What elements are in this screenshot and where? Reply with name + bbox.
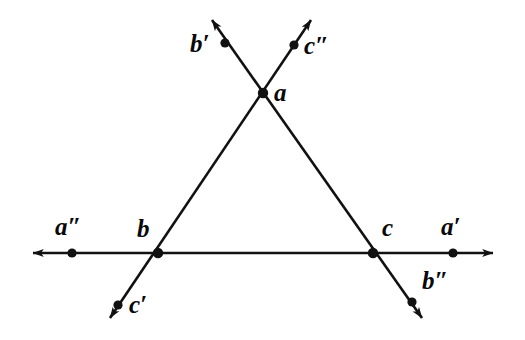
point-c-prime xyxy=(113,300,122,309)
geometry-figure: a b c a′ a″ b′ b″ c′ c″ xyxy=(0,0,525,340)
label-a-double-prime: a″ xyxy=(55,214,81,239)
label-b-double-prime: b″ xyxy=(422,268,448,293)
label-c-double-prime: c″ xyxy=(304,33,329,58)
point-b-prime xyxy=(220,38,229,47)
point-b xyxy=(153,248,163,258)
point-a-double-prime xyxy=(67,248,76,257)
label-c: c xyxy=(382,215,393,240)
points-group xyxy=(67,38,457,309)
point-b-double-prime xyxy=(407,297,416,306)
line-c-prime-through-b-and-a xyxy=(110,20,311,318)
point-c-double-prime xyxy=(289,40,298,49)
point-a xyxy=(258,88,268,98)
label-c-prime: c′ xyxy=(129,292,147,317)
point-c xyxy=(368,248,378,258)
point-a-prime xyxy=(448,248,457,257)
label-b: b xyxy=(137,216,150,241)
label-a-prime: a′ xyxy=(441,214,461,239)
label-b-prime: b′ xyxy=(190,31,210,56)
label-a: a xyxy=(274,80,287,105)
line-b-prime-through-a-and-c xyxy=(212,20,422,318)
